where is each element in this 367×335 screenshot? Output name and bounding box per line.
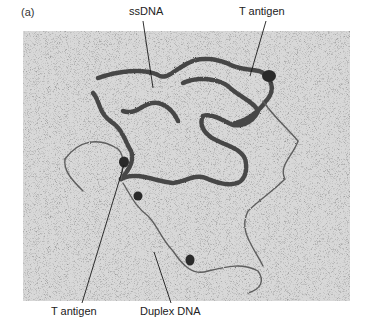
label-ssdna: ssDNA (129, 5, 163, 17)
t-antigen-blob-left (119, 157, 129, 168)
electron-micrograph (23, 31, 350, 301)
t-antigen-blob-top (262, 70, 276, 82)
label-t-antigen-bottom: T antigen (51, 305, 97, 317)
panel-label: (a) (21, 6, 34, 18)
label-duplex-dna: Duplex DNA (140, 305, 201, 317)
label-t-antigen-top: T antigen (239, 5, 285, 17)
t-antigen-blob-bottom (186, 255, 195, 266)
t-antigen-blob-mid (134, 192, 143, 201)
